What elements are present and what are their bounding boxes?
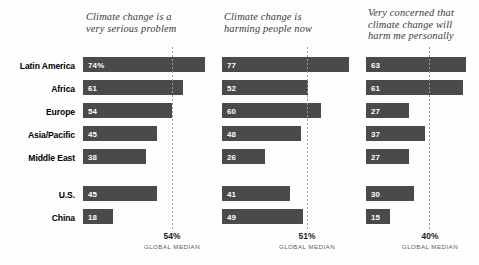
bar-value-col3-africa: 61: [371, 83, 380, 92]
bar-col1-china: 18: [83, 209, 113, 224]
column-2-plot: 77 52 60 48 26 41 49 51% GLOBAL MEDIAN: [222, 0, 352, 265]
bar-col2-china: 49: [222, 209, 303, 224]
row-label-us: U.S.: [0, 190, 75, 200]
bar-value-col1-asia-pacific: 45: [88, 129, 97, 138]
row-label-africa: Africa: [0, 84, 75, 94]
median-value-col1: 54%: [112, 232, 232, 241]
bar-col1-us: 45: [83, 186, 157, 201]
bar-value-col2-africa: 52: [227, 83, 236, 92]
bar-value-col1-europe: 54: [88, 106, 97, 115]
median-label-col1: 54% GLOBAL MEDIAN: [112, 232, 232, 251]
bar-value-col3-latin-america: 63: [371, 60, 380, 69]
bar-col3-asia-pacific: 37: [366, 126, 425, 141]
bar-value-col3-middle-east: 27: [371, 152, 380, 161]
median-label-col2: 51% GLOBAL MEDIAN: [247, 232, 367, 251]
bar-col3-europe: 27: [366, 103, 409, 118]
bar-col2-asia-pacific: 48: [222, 126, 301, 141]
bar-value-col2-us: 41: [227, 189, 236, 198]
bar-value-col3-china: 15: [371, 212, 380, 221]
column-harm-me-personally: Very concerned that climate change will …: [366, 0, 479, 265]
median-line-col3: [429, 47, 430, 231]
bar-col1-asia-pacific: 45: [83, 126, 157, 141]
bar-value-col1-latin-america: 74%: [88, 60, 104, 69]
bar-col2-africa: 52: [222, 80, 308, 95]
bar-value-col3-asia-pacific: 37: [371, 129, 380, 138]
median-line-col2: [307, 47, 308, 231]
bar-value-col1-china: 18: [88, 212, 97, 221]
median-caption-col1: GLOBAL MEDIAN: [112, 242, 232, 251]
bar-value-col2-asia-pacific: 48: [227, 129, 236, 138]
bar-col2-latin-america: 77: [222, 57, 349, 72]
bar-col3-china: 15: [366, 209, 390, 224]
bar-col1-europe: 54: [83, 103, 172, 118]
bar-col3-middle-east: 27: [366, 149, 409, 164]
bar-col3-latin-america: 63: [366, 57, 466, 72]
bar-col3-africa: 61: [366, 80, 463, 95]
column-3-plot: 63 61 27 37 27 30 15 40% GLOBAL MEDIAN: [366, 0, 479, 265]
bar-value-col2-europe: 60: [227, 106, 236, 115]
bar-col2-us: 41: [222, 186, 290, 201]
column-harming-people-now: Climate change is harming people now 77 …: [222, 0, 352, 265]
row-label-europe: Europe: [0, 107, 75, 117]
bar-value-col1-africa: 61: [88, 83, 97, 92]
median-value-col3: 40%: [370, 232, 479, 241]
bar-col1-latin-america: 74%: [83, 57, 205, 72]
bar-value-col1-middle-east: 38: [88, 152, 97, 161]
row-label-asia-pacific: Asia/Pacific: [0, 130, 75, 140]
median-caption-col2: GLOBAL MEDIAN: [247, 242, 367, 251]
median-caption-col3: GLOBAL MEDIAN: [370, 242, 479, 251]
bar-col3-us: 30: [366, 186, 414, 201]
bar-col1-middle-east: 38: [83, 149, 146, 164]
bar-col2-middle-east: 26: [222, 149, 265, 164]
row-label-china: China: [0, 213, 75, 223]
bar-value-col1-us: 45: [88, 189, 97, 198]
bar-value-col2-latin-america: 77: [227, 60, 236, 69]
bar-value-col2-china: 49: [227, 212, 236, 221]
bar-col1-africa: 61: [83, 80, 183, 95]
bar-value-col3-europe: 27: [371, 106, 380, 115]
median-value-col2: 51%: [247, 232, 367, 241]
column-1-plot: 74% 61 54 45 38 45 18 54% GLOBAL MEDIAN: [83, 0, 215, 265]
bar-value-col3-us: 30: [371, 189, 380, 198]
median-line-col1: [172, 47, 173, 231]
bar-value-col2-middle-east: 26: [227, 152, 236, 161]
median-label-col3: 40% GLOBAL MEDIAN: [370, 232, 479, 251]
column-very-serious-problem: Climate change is a very serious problem…: [83, 0, 215, 265]
row-label-latin-america: Latin America: [0, 61, 75, 71]
row-label-group: Latin America Africa Europe Asia/Pacific…: [0, 0, 80, 265]
row-label-middle-east: Middle East: [0, 153, 75, 163]
climate-change-bar-chart: Latin America Africa Europe Asia/Pacific…: [0, 0, 479, 265]
